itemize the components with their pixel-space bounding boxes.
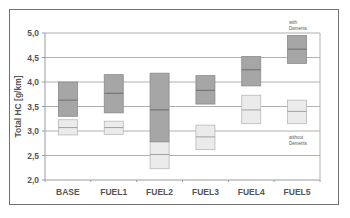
annotation-with-demerits: Demerits — [289, 26, 308, 31]
y-tick-label: 5,0 — [27, 28, 39, 38]
annotation-without-demerits: Demerits — [289, 141, 308, 146]
x-category-label: FUEL4 — [238, 187, 265, 197]
box-with-demerits — [58, 82, 77, 116]
y-tick-label: 2,0 — [27, 175, 39, 185]
x-category-label: FUEL1 — [100, 187, 127, 197]
box-plot-chart: 2,02,53,03,54,04,55,0Total HC [g/km]BASE… — [0, 0, 350, 218]
box-without-demerits — [150, 142, 169, 169]
x-category-label: BASE — [56, 187, 80, 197]
x-category-label: FUEL5 — [284, 187, 311, 197]
annotation-without-demerits: without — [289, 135, 304, 140]
y-tick-label: 3,0 — [27, 126, 39, 136]
box-with-demerits — [150, 73, 169, 142]
annotation-with-demerits: with — [289, 20, 297, 25]
box-with-demerits — [242, 57, 261, 86]
y-tick-label: 4,5 — [27, 53, 39, 63]
y-tick-label: 2,5 — [27, 151, 39, 161]
y-tick-label: 4,0 — [27, 77, 39, 87]
x-category-label: FUEL2 — [146, 187, 173, 197]
x-category-label: FUEL3 — [192, 187, 219, 197]
y-tick-label: 3,5 — [27, 102, 39, 112]
y-axis-label: Total HC [g/km] — [13, 75, 23, 137]
